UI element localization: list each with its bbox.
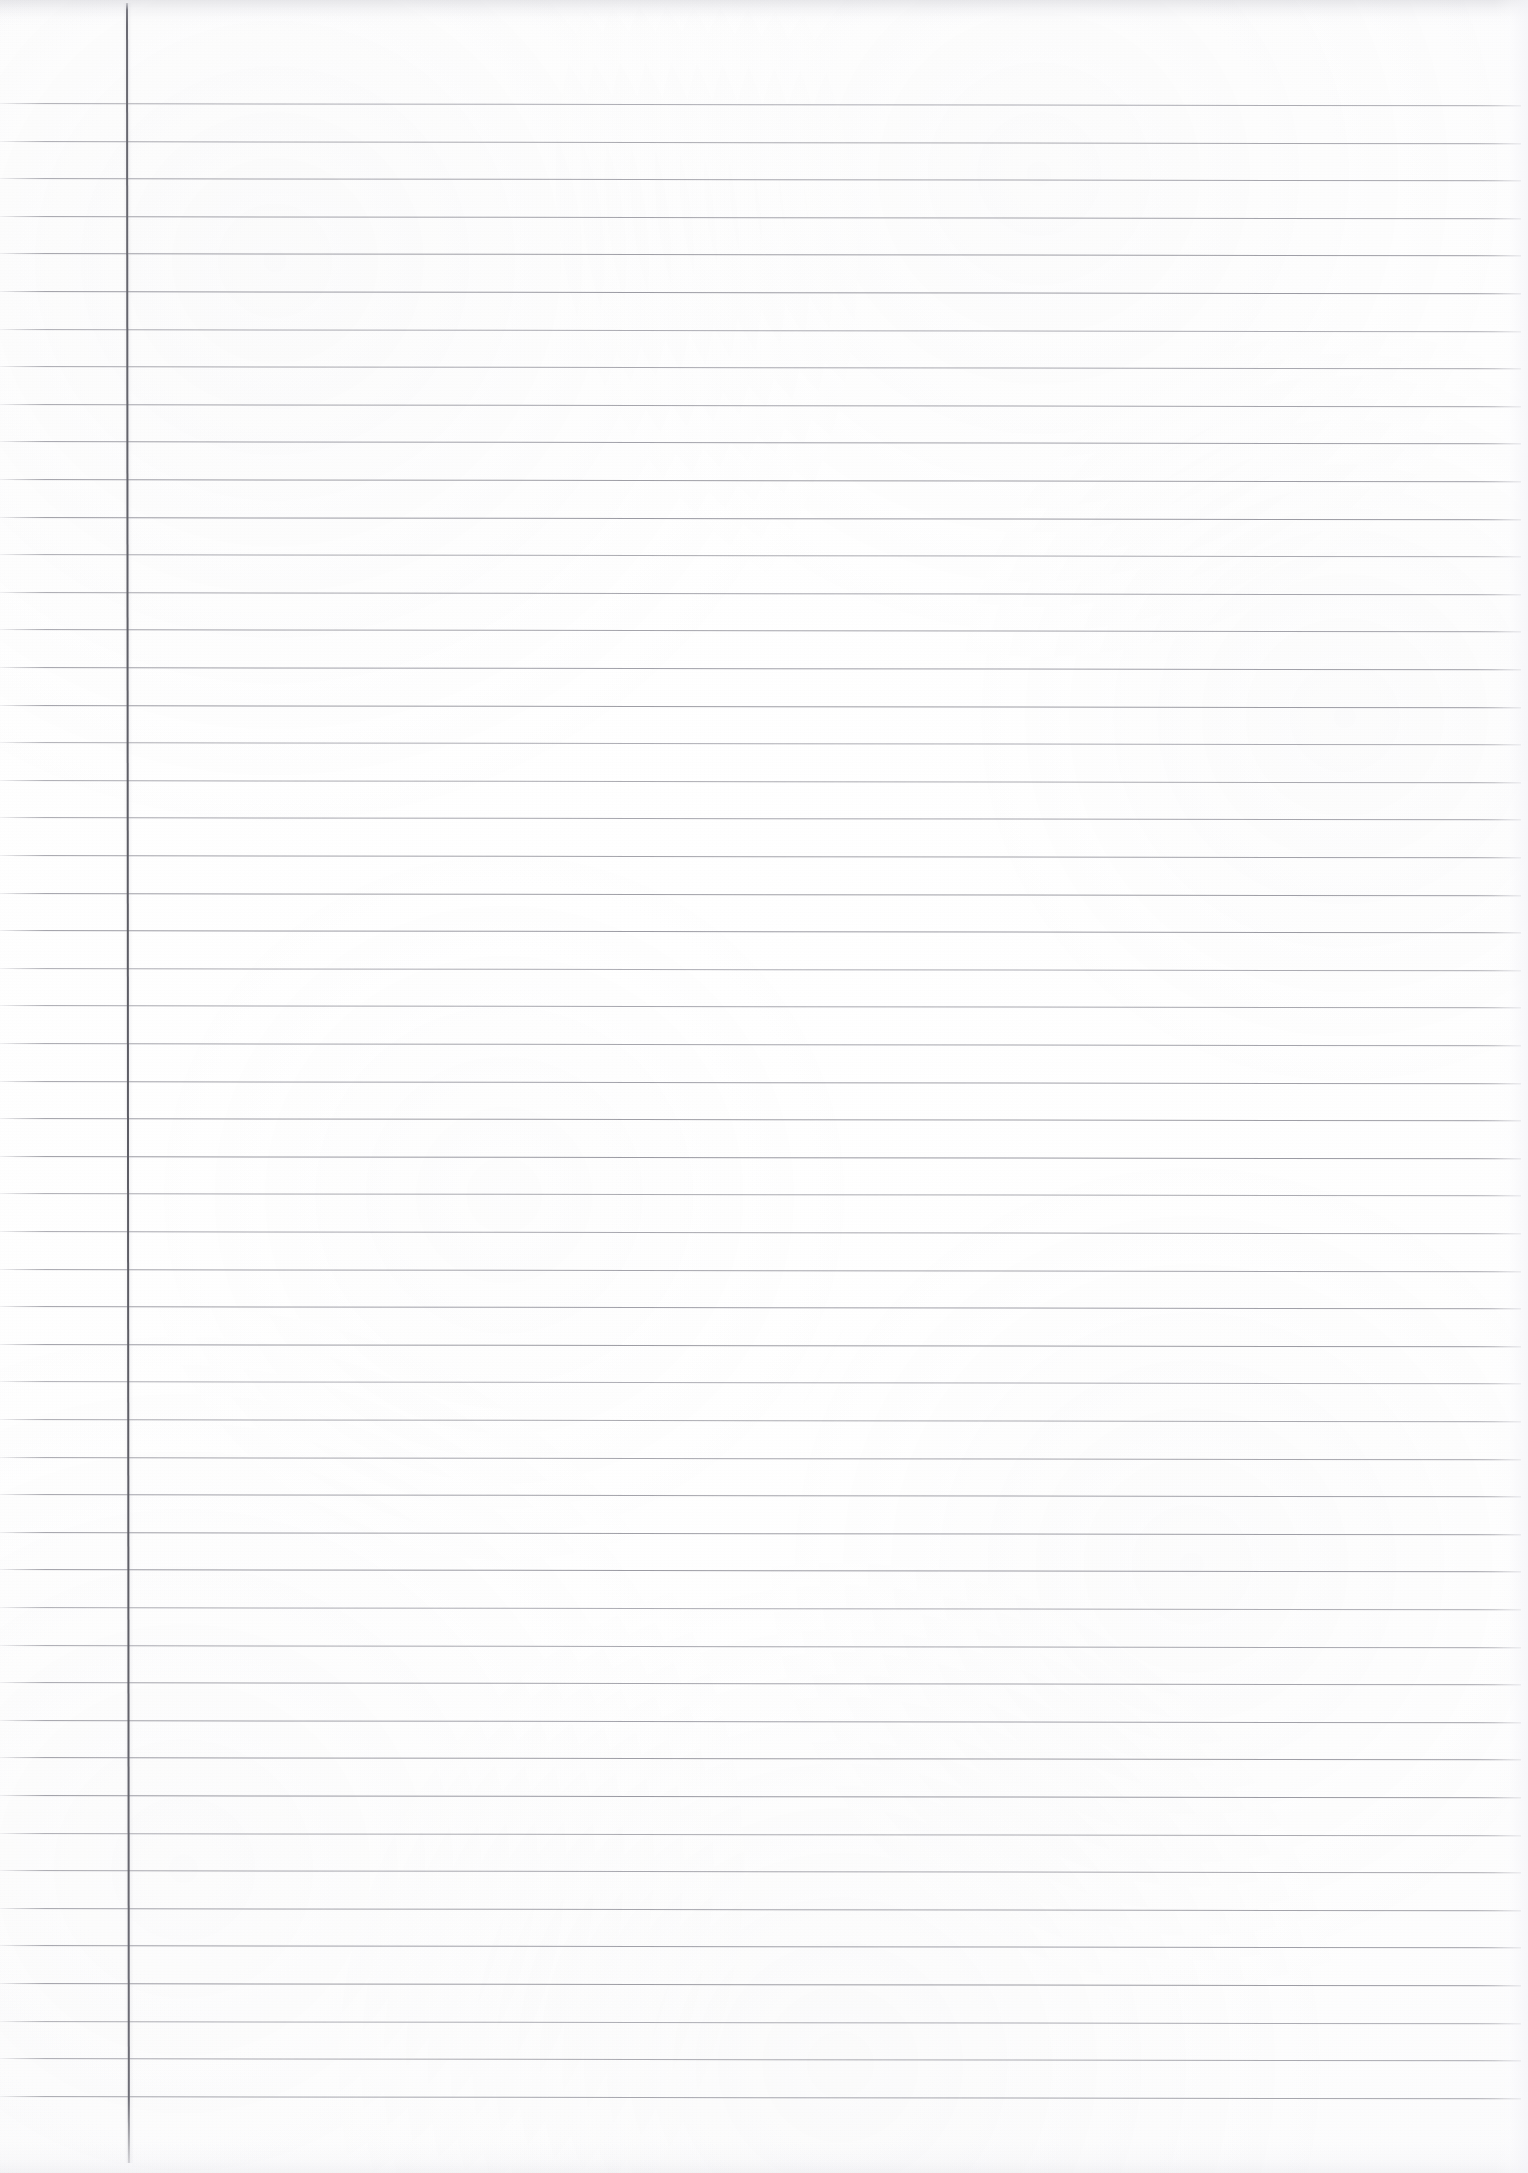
- ruled-line: [0, 930, 1521, 933]
- ruled-line: [0, 1607, 1521, 1610]
- ruled-line: [0, 1908, 1521, 1911]
- ruled-line: [0, 1381, 1521, 1384]
- ruled-line: [0, 2058, 1521, 2061]
- ruled-line: [0, 517, 1521, 520]
- ruled-line: [0, 1193, 1521, 1196]
- ruled-line: [0, 1156, 1521, 1159]
- ruled-line: [0, 742, 1521, 745]
- ruled-line: [0, 1081, 1521, 1084]
- ruled-line: [0, 253, 1521, 256]
- ruled-line: [0, 592, 1521, 595]
- ruled-line: [0, 1457, 1521, 1460]
- ruled-line: [0, 1118, 1521, 1121]
- ruled-line: [0, 141, 1521, 144]
- ruled-line: [0, 705, 1521, 708]
- ruled-line: [0, 667, 1521, 670]
- ruled-line: [0, 1306, 1521, 1309]
- ruled-line: [0, 1494, 1521, 1497]
- ruled-line: [0, 1945, 1521, 1948]
- ruled-line: [0, 2096, 1521, 2099]
- ruled-line: [0, 1870, 1521, 1873]
- ruled-line: [0, 1757, 1521, 1760]
- ruled-line: [0, 103, 1521, 106]
- scanned-page: [0, 0, 1528, 2173]
- ruled-line: [0, 554, 1521, 557]
- ruled-line: [0, 1419, 1521, 1422]
- ruled-line: [0, 968, 1521, 971]
- ruled-line: [0, 855, 1521, 858]
- ruled-line: [0, 780, 1521, 783]
- ruled-line: [0, 1005, 1521, 1008]
- ruled-line: [0, 1569, 1521, 1572]
- ruled-line: [0, 1795, 1521, 1798]
- ruled-line: [0, 1231, 1521, 1234]
- ruled-line: [0, 441, 1521, 444]
- ruled-line: [0, 216, 1521, 219]
- ruled-line: [0, 1269, 1521, 1272]
- ruled-line: [0, 1043, 1521, 1046]
- ruled-line: [0, 1344, 1521, 1347]
- ruled-line: [0, 817, 1521, 820]
- ruled-line: [0, 291, 1521, 294]
- ruled-line: [0, 329, 1521, 332]
- ruled-line: [0, 1983, 1521, 1986]
- ruled-line: [0, 366, 1521, 369]
- ruled-line: [0, 2021, 1521, 2024]
- ruled-lines-layer: [0, 0, 1528, 2173]
- ruled-line: [0, 1833, 1521, 1836]
- ruled-line: [0, 404, 1521, 407]
- ruled-line: [0, 1532, 1521, 1535]
- ruled-line: [0, 893, 1521, 896]
- ruled-line: [0, 178, 1521, 181]
- ruled-line: [0, 629, 1521, 632]
- ruled-line: [0, 1645, 1521, 1648]
- ruled-line: [0, 1682, 1521, 1685]
- ruled-line: [0, 1720, 1521, 1723]
- ruled-line: [0, 479, 1521, 482]
